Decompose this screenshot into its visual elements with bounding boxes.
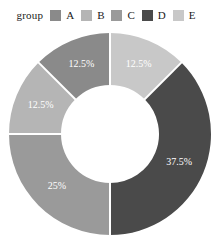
slice-label-d: 37.5% [166,156,192,167]
donut-plot-area: 12.5%37.5%25%12.5%12.5% [0,0,219,243]
slice-label-c: 25% [48,180,66,191]
slice-label-e: 12.5% [126,58,152,69]
donut-chart-figure: group A B C D E 12.5%37.5%25%12.5%12.5% [0,0,219,243]
slice-label-a: 12.5% [68,58,94,69]
slice-label-b: 12.5% [28,99,54,110]
donut-svg: 12.5%37.5%25%12.5%12.5% [0,0,219,243]
donut-slice-d[interactable] [110,63,211,235]
